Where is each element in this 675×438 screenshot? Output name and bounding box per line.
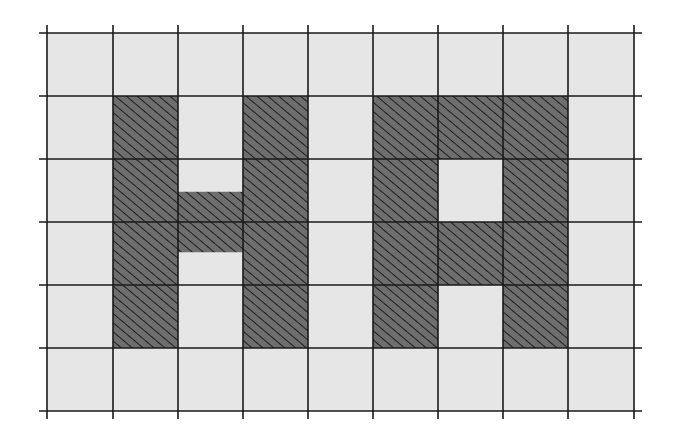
crossbar-fill — [178, 192, 243, 222]
crossbar-fill — [178, 222, 243, 252]
filled-cell — [243, 222, 308, 285]
filled-cell — [373, 96, 438, 159]
filled-cell — [503, 96, 568, 159]
filled-cell — [373, 285, 438, 348]
filled-cell — [503, 285, 568, 348]
filled-cell — [113, 222, 178, 285]
filled-cell — [373, 222, 438, 285]
filled-cell — [113, 285, 178, 348]
filled-cell — [113, 96, 178, 159]
filled-cell — [438, 96, 503, 159]
filled-cell — [438, 222, 503, 285]
filled-cell — [113, 159, 178, 222]
filled-cell — [243, 159, 308, 222]
filled-cell — [243, 285, 308, 348]
filled-cell — [373, 159, 438, 222]
filled-cell — [503, 159, 568, 222]
filled-cell — [503, 222, 568, 285]
filled-cell — [243, 96, 308, 159]
letter-grid-diagram — [0, 0, 675, 438]
